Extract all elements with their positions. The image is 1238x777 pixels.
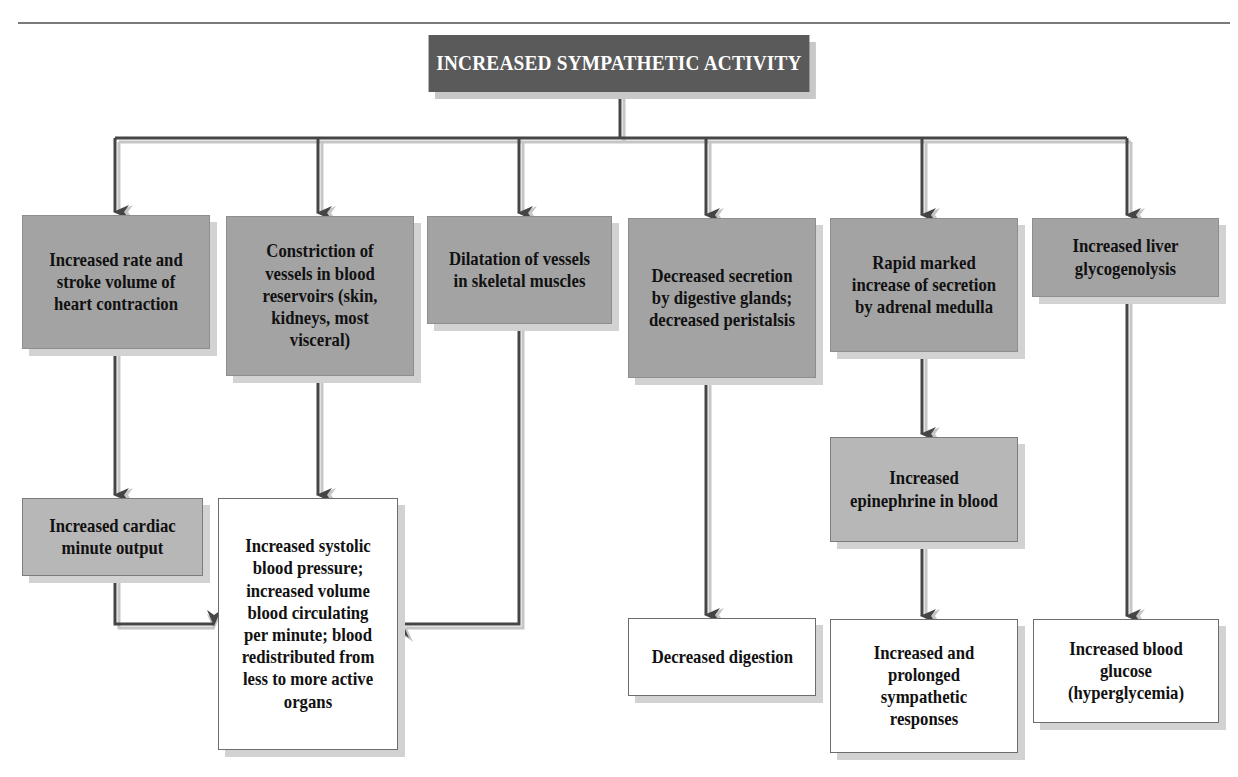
blood-pressure-label: Increased systolic blood pressure; incre… xyxy=(235,535,381,713)
blood-glucose-box: Increased blood glucose (hyperglycemia) xyxy=(1033,619,1219,723)
title-box: INCREASED SYMPATHETIC ACTIVITY xyxy=(429,35,810,92)
blood-glucose-label: Increased blood glucose (hyperglycemia) xyxy=(1050,638,1201,705)
title-text: INCREASED SYMPATHETIC ACTIVITY xyxy=(436,51,802,76)
sympathetic-responses-box: Increased and prolonged sympathetic resp… xyxy=(830,619,1018,753)
effect-dilatation-box: Dilatation of vessels in skeletal muscle… xyxy=(427,216,612,324)
effect-liver-box: Increased liver glycogenolysis xyxy=(1032,218,1219,297)
effect-adrenal-box: Rapid marked increase of secretion by ad… xyxy=(830,218,1018,352)
cardiac-output-box: Increased cardiac minute output xyxy=(22,498,203,576)
effect-adrenal-label: Rapid marked increase of secretion by ad… xyxy=(847,252,1000,319)
effect-liver-label: Increased liver glycogenolysis xyxy=(1049,235,1201,279)
epinephrine-label: Increased epinephrine in blood xyxy=(847,467,1000,511)
effect-dilatation-label: Dilatation of vessels in skeletal muscle… xyxy=(444,248,594,292)
effect-constriction-label: Constriction of vessels in blood reservo… xyxy=(243,240,396,351)
digestion-box: Decreased digestion xyxy=(628,618,816,696)
effect-heart-box: Increased rate and stroke volume of hear… xyxy=(22,215,210,349)
cardiac-output-label: Increased cardiac minute output xyxy=(39,515,186,559)
effect-digestive-label: Decreased secretion by digestive glands;… xyxy=(645,265,798,332)
digestion-label: Decreased digestion xyxy=(651,646,792,668)
effect-digestive-box: Decreased secretion by digestive glands;… xyxy=(628,218,816,378)
sympathetic-responses-label: Increased and prolonged sympathetic resp… xyxy=(847,642,1000,731)
blood-pressure-box: Increased systolic blood pressure; incre… xyxy=(218,498,398,750)
effect-constriction-box: Constriction of vessels in blood reservo… xyxy=(226,216,414,376)
epinephrine-box: Increased epinephrine in blood xyxy=(830,437,1018,542)
effect-heart-label: Increased rate and stroke volume of hear… xyxy=(39,249,192,316)
